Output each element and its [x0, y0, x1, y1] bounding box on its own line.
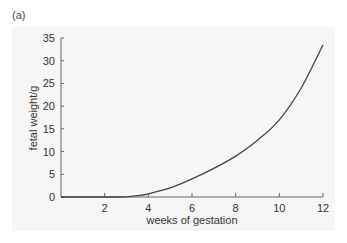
axes — [61, 38, 323, 197]
y-tick-label: 10 — [43, 146, 55, 158]
y-tick-label: 35 — [43, 32, 55, 44]
x-tick-label: 10 — [273, 202, 285, 214]
y-tick-label: 30 — [43, 55, 55, 67]
tick-labels: 0510152025303524681012 — [43, 32, 329, 214]
x-tick-label: 6 — [189, 202, 195, 214]
x-tick-label: 2 — [102, 202, 108, 214]
x-axis-title: weeks of gestation — [145, 214, 237, 226]
y-tick-label: 25 — [43, 77, 55, 89]
y-tick-label: 15 — [43, 123, 55, 135]
x-tick-label: 8 — [233, 202, 239, 214]
growth-curve — [61, 45, 323, 197]
x-tick-label: 4 — [145, 202, 151, 214]
fetal-weight-chart: 0510152025303524681012 weeks of gestatio… — [0, 0, 347, 243]
y-tick-label: 0 — [49, 191, 55, 203]
y-axis-title: fetal weight/g — [27, 86, 39, 151]
y-tick-label: 5 — [49, 168, 55, 180]
y-tick-label: 20 — [43, 100, 55, 112]
x-tick-label: 12 — [317, 202, 329, 214]
